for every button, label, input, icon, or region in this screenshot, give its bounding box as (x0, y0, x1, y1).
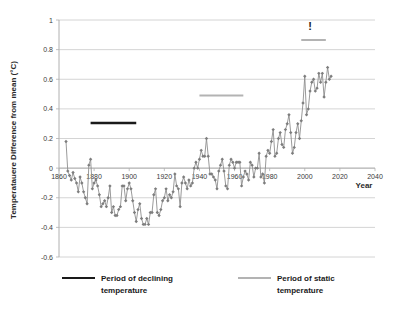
data-point-marker (105, 205, 108, 208)
data-point-marker (270, 140, 273, 143)
data-point-marker (152, 193, 155, 196)
temperature-anomaly-chart: -0.6-0.4-0.200.20.40.60.81 1860188019001… (0, 0, 396, 310)
legend-group: Period of decliningtemperaturePeriod of … (62, 274, 335, 295)
data-point-marker (296, 122, 299, 125)
data-point-marker (133, 211, 136, 214)
data-point-marker (194, 161, 197, 164)
legend-static-label-line2: temperature (277, 286, 324, 295)
data-point-marker (294, 131, 297, 134)
data-point-marker (166, 199, 169, 202)
exclamation-mark: ! (308, 20, 312, 32)
data-point-marker (303, 75, 306, 78)
data-point-marker (184, 181, 187, 184)
y-tick-label: 0.2 (43, 135, 53, 142)
data-point-marker (307, 107, 310, 110)
data-point-marker (91, 187, 94, 190)
data-point-marker (319, 81, 322, 84)
data-point-marker (164, 187, 167, 190)
data-point-marker (126, 187, 129, 190)
data-point-marker (78, 175, 81, 178)
data-point-marker (70, 178, 73, 181)
data-point-marker (180, 181, 183, 184)
data-point-marker (87, 163, 90, 166)
data-point-marker (207, 155, 210, 158)
data-point-marker (145, 217, 148, 220)
data-point-marker (108, 184, 111, 187)
data-point-marker (75, 181, 78, 184)
data-point-marker (124, 199, 127, 202)
data-point-marker (287, 113, 290, 116)
data-point-marker (115, 214, 118, 217)
data-point-marker (240, 184, 243, 187)
data-point-marker (271, 128, 274, 131)
data-point-marker (326, 66, 329, 69)
data-point-marker (187, 178, 190, 181)
data-point-marker (286, 122, 289, 125)
data-point-marker (300, 119, 303, 122)
data-point-marker (233, 166, 236, 169)
data-point-marker (219, 163, 222, 166)
data-point-marker (215, 187, 218, 190)
y-tick-label: 0.4 (43, 105, 53, 112)
data-point-marker (138, 202, 141, 205)
data-point-marker (131, 199, 134, 202)
x-tick-label: 1900 (121, 173, 137, 180)
legend-static-label-line1: Period of static (277, 274, 335, 283)
data-point-marker (129, 187, 132, 190)
data-point-marker (321, 72, 324, 75)
data-point-marker (150, 211, 153, 214)
data-point-marker (98, 193, 101, 196)
data-point-marker (301, 101, 304, 104)
y-tick-label: 0.8 (43, 46, 53, 53)
data-point-marker (68, 174, 71, 177)
data-point-marker (252, 175, 255, 178)
data-point-marker (122, 184, 125, 187)
data-point-marker (80, 181, 83, 184)
period-bands-group (91, 40, 326, 123)
gridlines-group (59, 20, 375, 257)
data-point-marker (198, 158, 201, 161)
data-point-marker (135, 220, 138, 223)
data-point-marker (277, 137, 280, 140)
data-point-marker (263, 181, 266, 184)
x-tick-label: 2040 (367, 173, 383, 180)
data-point-marker (192, 166, 195, 169)
y-tick-label: -0.4 (41, 224, 53, 231)
data-point-marker (264, 155, 267, 158)
data-point-marker (217, 169, 220, 172)
data-point-marker (182, 175, 185, 178)
data-series-group (64, 66, 332, 226)
data-point-marker (238, 161, 241, 164)
data-point-marker (221, 158, 224, 161)
y-tick-labels-group: -0.6-0.4-0.200.20.40.60.81 (41, 17, 59, 261)
data-point-marker (200, 149, 203, 152)
x-tick-label: 1940 (192, 173, 208, 180)
y-tick-label: 1 (49, 17, 53, 24)
data-point-marker (196, 166, 199, 169)
data-point-marker (173, 172, 176, 175)
data-point-marker (205, 137, 208, 140)
data-point-marker (77, 190, 80, 193)
chart-figure: -0.6-0.4-0.200.20.40.60.81 1860188019001… (0, 0, 396, 310)
data-point-marker (136, 208, 139, 211)
x-tick-label: 1920 (157, 173, 173, 180)
x-tick-label: 2000 (297, 173, 313, 180)
y-tick-label: -0.6 (41, 254, 53, 261)
data-point-marker (73, 177, 76, 180)
legend-declining-label-line2: temperature (101, 286, 148, 295)
data-point-marker (140, 217, 143, 220)
data-point-marker (228, 163, 231, 166)
data-point-marker (291, 152, 294, 155)
data-point-marker (305, 113, 308, 116)
data-point-marker (324, 81, 327, 84)
data-point-marker (256, 166, 259, 169)
data-point-marker (85, 202, 88, 205)
data-point-marker (279, 131, 282, 134)
data-point-marker (82, 190, 85, 193)
data-point-marker (284, 128, 287, 131)
data-point-marker (203, 155, 206, 158)
data-point-marker (185, 187, 188, 190)
data-point-marker (106, 196, 109, 199)
data-point-marker (71, 171, 74, 174)
y-axis-title: Temperatauere Difference from mean (°C) (9, 61, 18, 219)
